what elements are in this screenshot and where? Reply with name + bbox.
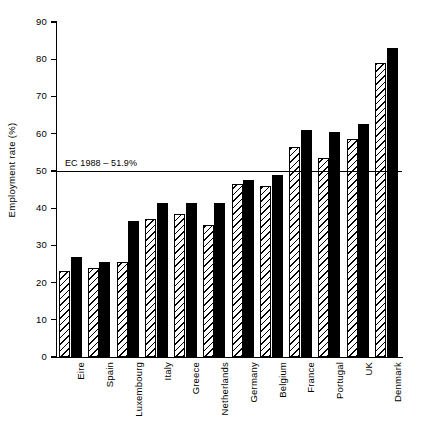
bar-hatched [174,214,185,357]
bar-group [375,22,398,357]
bar-solid [387,48,398,357]
bar-group [347,22,370,357]
bar-group [289,22,312,357]
x-axis-label: Spain [104,362,115,387]
bar-solid [214,203,225,357]
bar-hatched [289,147,300,357]
bar-solid [128,221,139,357]
y-axis-tick-label: 0 [7,352,47,362]
bar-hatched [145,219,156,357]
x-axis-label: Netherlands [219,362,230,415]
bar-hatched [203,225,214,357]
bar-group [232,22,255,357]
bar-hatched [117,262,128,357]
bar-hatched [59,271,70,357]
x-axis-label: Italy [162,362,173,380]
plot-area: EC 1988 – 51.9% [57,22,402,357]
bar-group [88,22,111,357]
bar-group [59,22,82,357]
bar-solid [301,130,312,357]
bar-group [318,22,341,357]
bar-group [145,22,168,357]
bar-solid [157,203,168,357]
bar-hatched [232,184,243,357]
x-axis-label: Greece [190,362,201,394]
x-axis-label: France [305,362,316,393]
bar-hatched [260,186,271,357]
bar-solid [71,257,82,358]
bar-hatched [375,63,386,357]
x-axis-label: Denmark [392,362,403,402]
y-axis-tick-label: 40 [7,203,47,213]
bar-group [260,22,283,357]
bar-solid [186,203,197,357]
y-axis-tick-label: 30 [7,240,47,250]
x-axis-label: Luxembourg [133,362,144,417]
y-axis-tick-label: 10 [7,315,47,325]
y-axis-tick-label: 90 [7,17,47,27]
bar-solid [329,132,340,357]
bar-solid [243,180,254,357]
bar-group [174,22,197,357]
ec-average-reference-line [57,171,402,172]
y-axis-tick-label: 50 [7,166,47,176]
bar-group [117,22,140,357]
ec-average-reference-label: EC 1988 – 51.9% [65,158,137,168]
y-axis-tick-label: 70 [7,91,47,101]
bar-solid [99,262,110,357]
y-axis-tick-label: 80 [7,54,47,64]
x-axis-label: UK [363,362,374,376]
x-axis-label: Eire [75,362,86,380]
x-axis-line [56,357,403,358]
x-axis-label: Portugal [334,362,345,399]
bar-hatched [88,268,99,357]
x-axis-label: Belgium [277,362,288,398]
bar-hatched [318,158,329,357]
bar-solid [272,175,283,357]
y-axis-tick-label: 20 [7,278,47,288]
employment-rate-bar-chart: Employment rate (%) 0102030405060708090 … [0,0,424,431]
x-axis-label: Germany [248,362,259,402]
bar-solid [358,124,369,357]
bar-group [203,22,226,357]
y-axis-tick-label: 60 [7,129,47,139]
